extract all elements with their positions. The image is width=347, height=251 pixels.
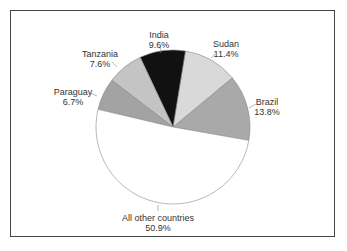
label-sudan-name: Sudan — [213, 39, 239, 49]
label-sudan-pct: 11.4% — [213, 49, 239, 59]
label-india-pct: 9.6% — [149, 40, 170, 50]
label-all-other-pct: 50.9% — [122, 223, 194, 233]
label-all-other-name: All other countries — [122, 213, 194, 223]
label-tanzania-name: Tanzania — [82, 49, 118, 59]
label-india-name: India — [149, 30, 170, 40]
label-tanzania-pct: 7.6% — [82, 59, 118, 69]
label-brazil-name: Brazil — [254, 97, 280, 107]
label-india: India 9.6% — [149, 30, 170, 50]
label-paraguay-name: Paraguay — [54, 87, 93, 97]
label-sudan: Sudan 11.4% — [213, 39, 239, 59]
label-all-other: All other countries 50.9% — [122, 213, 194, 233]
label-paraguay-pct: 6.7% — [54, 97, 93, 107]
label-brazil-pct: 13.8% — [254, 107, 280, 117]
label-brazil: Brazil 13.8% — [254, 97, 280, 117]
label-tanzania: Tanzania 7.6% — [82, 49, 118, 69]
label-paraguay: Paraguay 6.7% — [54, 87, 93, 107]
